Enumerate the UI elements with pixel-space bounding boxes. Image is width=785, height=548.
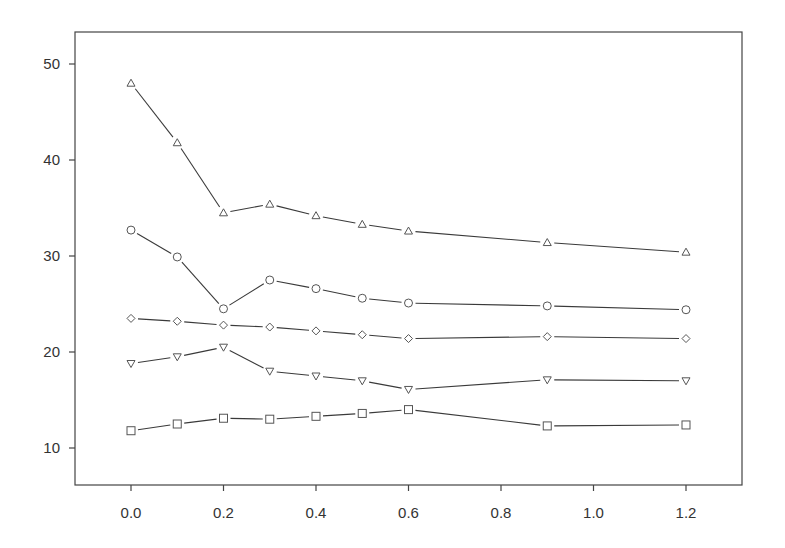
triangle-up-marker: [358, 220, 366, 227]
series-segment: [277, 417, 309, 419]
square-marker: [127, 427, 135, 435]
series-segment: [415, 337, 540, 339]
y-tick-label: 30: [43, 247, 60, 264]
series-segment: [277, 206, 310, 214]
series-segment: [369, 299, 401, 302]
square-marker: [173, 420, 181, 428]
x-tick-label: 0.0: [121, 504, 142, 521]
triangle-up-marker: [173, 139, 181, 146]
triangle-up-marker: [312, 212, 320, 219]
series-segment: [415, 232, 540, 242]
circle-marker: [266, 276, 274, 284]
series-segment: [229, 284, 263, 305]
series-segment: [415, 380, 540, 389]
diamond-marker: [127, 314, 135, 322]
y-tick-label: 40: [43, 151, 60, 168]
triangle-down-marker: [220, 344, 228, 351]
y-tick-label: 50: [43, 55, 60, 72]
series-segment: [181, 149, 220, 207]
triangle-down-marker: [127, 361, 135, 368]
x-tick-label: 0.2: [213, 504, 234, 521]
x-tick-label: 0.6: [398, 504, 419, 521]
circle-marker: [543, 302, 551, 310]
diamond-marker: [405, 335, 413, 343]
y-tick-label: 10: [43, 439, 60, 456]
series-diamond: [127, 314, 690, 342]
diamond-marker: [543, 333, 551, 341]
triangle-up-marker: [682, 248, 690, 255]
series-segment: [137, 234, 171, 254]
series-segment: [323, 414, 355, 416]
series-square: [127, 406, 690, 435]
series-segment: [323, 290, 356, 297]
triangle-up-marker: [266, 200, 274, 207]
triangle-up-marker: [220, 209, 228, 216]
series-segment: [554, 306, 679, 309]
circle-marker: [405, 299, 413, 307]
square-marker: [266, 415, 274, 423]
series-segment: [369, 225, 401, 230]
triangle-down-marker: [173, 354, 181, 361]
triangle-down-marker: [312, 373, 320, 380]
series-segment: [135, 89, 173, 137]
series-segment: [138, 425, 170, 430]
series-segment: [415, 303, 540, 306]
triangle-down-marker: [543, 377, 551, 384]
series-segment: [138, 319, 170, 321]
triangle-up-marker: [127, 79, 135, 86]
circle-marker: [358, 294, 366, 302]
triangle-up-marker: [543, 239, 551, 246]
series-segment: [554, 380, 679, 381]
series-triangle-up: [127, 79, 690, 255]
x-tick-label: 1.0: [583, 504, 604, 521]
series-segment: [554, 243, 679, 252]
circle-marker: [220, 305, 228, 313]
x-tick-label: 0.4: [306, 504, 327, 521]
series-segment: [323, 331, 355, 334]
series-segment: [415, 410, 540, 425]
series-segment: [323, 377, 355, 380]
series-segment: [230, 325, 262, 326]
x-axis: 0.00.20.40.60.81.01.2: [121, 485, 697, 521]
square-marker: [312, 412, 320, 420]
series-segment: [277, 281, 309, 287]
series-segment: [230, 418, 262, 419]
line-chart: 1020304050 0.00.20.40.60.81.01.2: [0, 0, 785, 548]
diamond-marker: [220, 321, 228, 329]
square-marker: [405, 406, 413, 414]
x-tick-label: 1.2: [676, 504, 697, 521]
series-segment: [184, 349, 217, 356]
triangle-down-marker: [266, 368, 274, 375]
square-marker: [220, 414, 228, 422]
series-triangle-down: [127, 344, 690, 393]
diamond-marker: [173, 317, 181, 325]
diamond-marker: [312, 327, 320, 335]
series-segment: [277, 372, 309, 375]
x-tick-label: 0.8: [491, 504, 512, 521]
circle-marker: [173, 253, 181, 261]
series-segment: [184, 322, 216, 325]
triangle-down-marker: [682, 378, 690, 385]
series-segment: [138, 358, 170, 363]
diamond-marker: [682, 335, 690, 343]
diamond-marker: [266, 323, 274, 331]
series-segment: [182, 262, 219, 303]
series-segment: [184, 419, 216, 423]
triangle-down-marker: [358, 378, 366, 385]
series-segment: [369, 335, 401, 338]
square-marker: [682, 421, 690, 429]
series-segment: [277, 328, 309, 331]
diamond-marker: [358, 331, 366, 339]
y-axis: 1020304050: [43, 55, 75, 456]
circle-marker: [312, 285, 320, 293]
series-segment: [369, 410, 401, 413]
triangle-up-marker: [405, 227, 413, 234]
series-group: [127, 79, 690, 435]
y-tick-label: 20: [43, 343, 60, 360]
circle-marker: [127, 226, 135, 234]
circle-marker: [682, 306, 690, 314]
series-segment: [369, 382, 401, 388]
square-marker: [543, 422, 551, 430]
series-segment: [554, 337, 679, 339]
series-segment: [230, 350, 264, 368]
